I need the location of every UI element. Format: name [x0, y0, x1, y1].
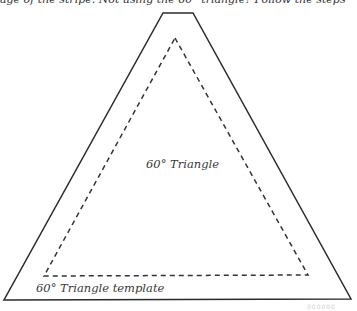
faint-corner-mark: 000000: [307, 303, 336, 310]
triangle-template-diagram: [0, 0, 357, 311]
triangle-template-label: 60° Triangle template: [36, 281, 164, 295]
triangle-center-label: 60° Triangle: [146, 157, 219, 171]
